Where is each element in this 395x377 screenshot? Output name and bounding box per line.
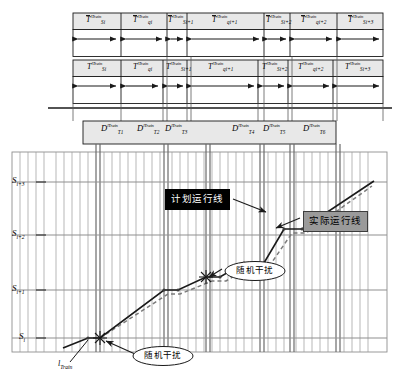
timing-bands — [48, 13, 392, 144]
plan-callout-leader — [233, 199, 266, 212]
actual-cell-6: TlTrainSi+3 — [345, 62, 370, 72]
actual-cell-3: TlTrainqi+1 — [208, 62, 233, 72]
planned-cell-6: TlTrainSi+3 — [348, 15, 373, 25]
station-tick-label-1: Si+2 — [12, 229, 25, 240]
station-ticks — [36, 182, 46, 338]
delay-cell-5: DlTrainT6 — [303, 124, 325, 135]
segment-boundaries — [96, 144, 340, 352]
actual-line-callout: 实际运行线 — [303, 211, 368, 232]
disturbance-star-lower — [93, 331, 107, 345]
actual-cell-1: TlTrainqi — [133, 62, 152, 72]
actual-cell-4: TlTrainSi+2 — [262, 62, 287, 72]
train-diagram-figure: TlTrainSi TlTrainqi TlTrainSi+1 TlTrainq… — [0, 0, 395, 377]
chart-area — [12, 144, 387, 366]
station-tick-label-0: Si+3 — [12, 176, 25, 187]
disturbance-star-upper — [199, 270, 213, 284]
delay-cell-1: DlTrainT2 — [137, 124, 159, 135]
planned-cell-5: TlTrainqi+2 — [301, 15, 326, 25]
train-identifier-label: lTrain — [58, 360, 72, 370]
planned-cell-1: TlTrainqi — [133, 15, 152, 25]
delay-cell-4: DlTrainT5 — [263, 124, 285, 135]
delay-cell-0: DlTrainT1 — [101, 124, 123, 135]
actual-cell-2: TlTrainSi+1 — [166, 62, 191, 72]
station-tick-label-2: Si+1 — [12, 284, 25, 295]
planned-cell-2: TlTrainSi+1 — [168, 15, 193, 25]
actual-cell-0: TlTrainSi — [87, 62, 106, 72]
planned-cell-0: TlTrainSi — [86, 15, 105, 25]
delay-cell-2: DlTrainT3 — [165, 124, 187, 135]
planned-cell-4: TlTrainSi+2 — [266, 15, 291, 25]
planned-cell-3: TlTrainqi+1 — [212, 15, 237, 25]
planned-line-callout: 计划运行线 — [165, 189, 230, 210]
delay-cell-3: DlTrainT4 — [232, 124, 254, 135]
actual-cell-5: TlTrainqi+2 — [298, 62, 323, 72]
actual-callout-leader — [276, 218, 300, 228]
station-tick-label-3: Si — [19, 332, 25, 343]
disturbance-lower-label: 随机干扰 — [142, 351, 184, 360]
disturbance-upper-label: 随机干扰 — [234, 266, 276, 275]
